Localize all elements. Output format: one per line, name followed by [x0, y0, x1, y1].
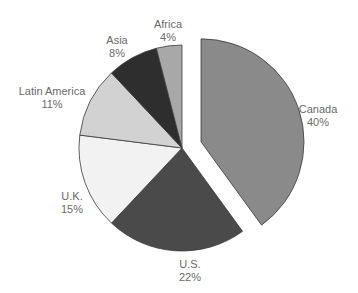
label-asia: Asia8% [106, 34, 127, 60]
label-africa: Africa4% [154, 18, 182, 44]
label-u-k: U.K.15% [61, 190, 83, 216]
label-u-s: U.S.22% [179, 258, 201, 284]
label-latin-america: Latin America11% [19, 85, 86, 111]
label-canada: Canada40% [299, 103, 338, 129]
